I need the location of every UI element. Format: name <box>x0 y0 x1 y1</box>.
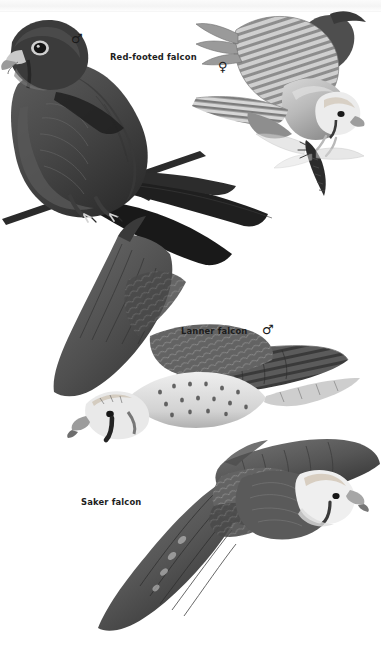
female-symbol-icon: ♀ <box>218 60 228 73</box>
label-saker-falcon: Saker falcon <box>81 498 141 506</box>
dragonfly-prey <box>256 133 364 196</box>
plate-page: Red-footed falcon ♂ ♀ Lanner falcon ♂ Sa… <box>0 0 381 645</box>
male-symbol-icon: ♂ <box>262 323 274 336</box>
figure-saker-falcon <box>98 439 380 631</box>
figure-red-footed-falcon-female <box>192 11 366 196</box>
page-header-band <box>0 0 381 12</box>
label-lanner-falcon: Lanner falcon <box>181 327 247 335</box>
plate-artwork <box>0 0 381 645</box>
male-symbol-icon: ♂ <box>71 32 83 45</box>
label-red-footed-falcon: Red-footed falcon <box>110 53 197 61</box>
